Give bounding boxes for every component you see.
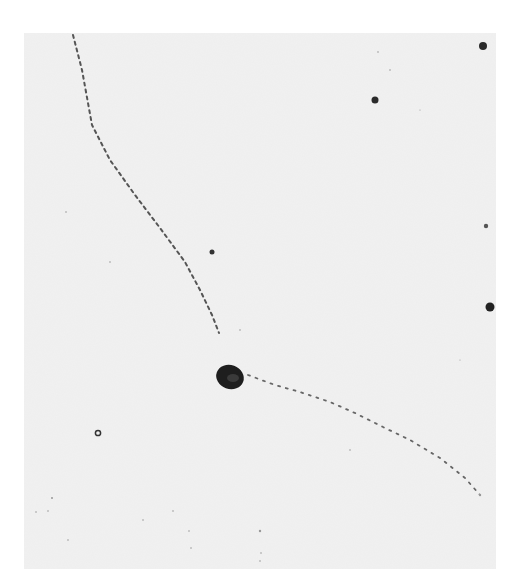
grain-dot [484, 224, 488, 228]
grain-dot [210, 250, 215, 255]
blob-highlight [227, 374, 239, 382]
grain-dot [479, 42, 487, 50]
grain-dot [372, 97, 379, 104]
film-grain [24, 33, 496, 569]
grain-dot [486, 303, 495, 312]
micrograph-svg [24, 33, 496, 569]
micrograph-photo [24, 33, 496, 569]
